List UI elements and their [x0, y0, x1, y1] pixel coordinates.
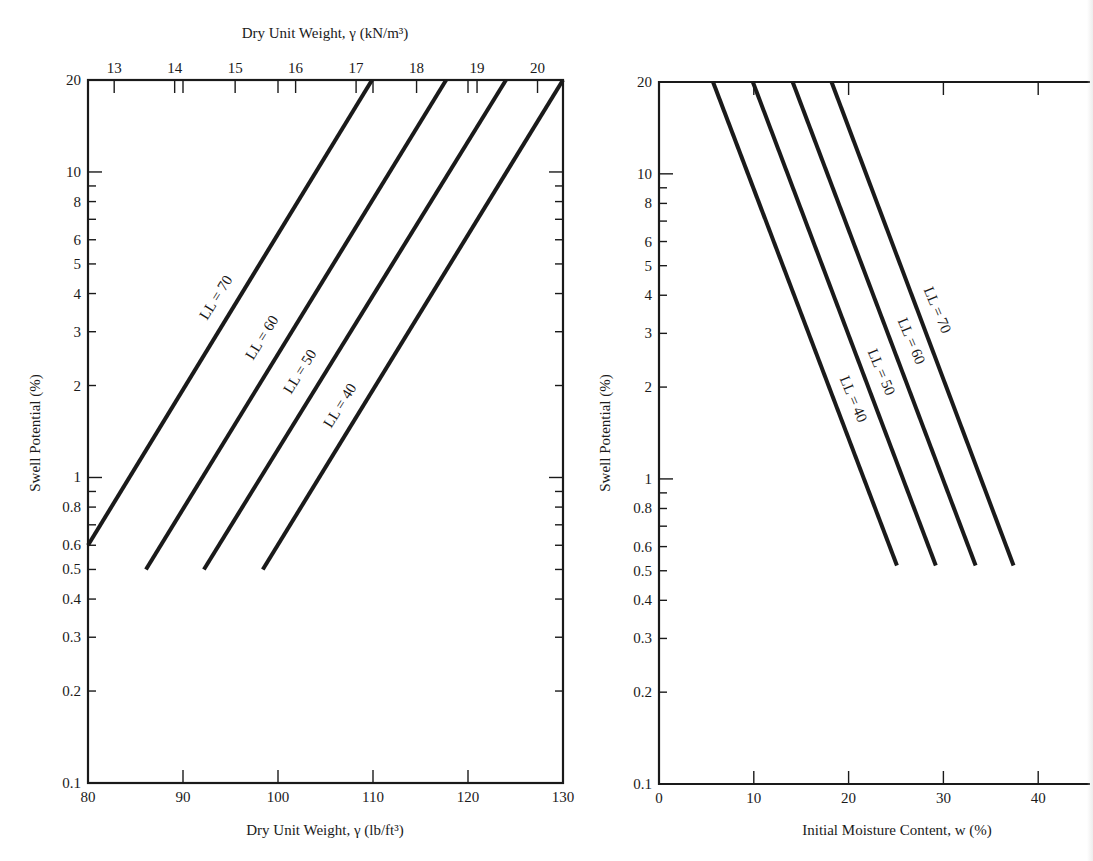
y-tick-label: 0.4 — [62, 591, 81, 607]
x-tick-label: 30 — [936, 790, 951, 806]
y-tick-label: 0.3 — [62, 629, 81, 645]
page-edge-shadow — [1087, 0, 1093, 861]
y-tick-label: 20 — [637, 74, 652, 90]
y-tick-label: 3 — [645, 325, 653, 341]
x-tick-label: 90 — [176, 789, 191, 805]
y-tick-label: 3 — [74, 324, 82, 340]
y-tick-label: 6 — [645, 234, 653, 250]
y-tick-label: 0.3 — [633, 630, 652, 646]
top-x-tick-label: 19 — [470, 60, 485, 76]
y-tick-label: 0.4 — [633, 592, 652, 608]
figure-canvas: 0.10.20.30.40.50.60.81234568102080901001… — [0, 0, 1093, 861]
y-tick-label: 2 — [645, 379, 653, 395]
y-tick-label: 10 — [66, 164, 81, 180]
right-chart: 0.10.20.30.40.50.60.81234568102001020304… — [633, 74, 1090, 806]
y-tick-label: 1 — [74, 469, 82, 485]
series-line-ll60 — [146, 80, 446, 569]
left-top-axis-title: Dry Unit Weight, γ (kN/m³) — [242, 25, 409, 42]
right-y-axis-title: Swell Potential (%) — [597, 374, 614, 491]
y-tick-label: 4 — [74, 286, 82, 302]
top-x-tick-label: 16 — [288, 60, 304, 76]
left-y-axis-title: Swell Potential (%) — [27, 374, 44, 491]
x-tick-label: 100 — [267, 789, 290, 805]
top-x-tick-label: 15 — [228, 60, 243, 76]
plot-frame — [659, 82, 1090, 784]
top-x-tick-label: 18 — [409, 60, 424, 76]
y-tick-label: 0.1 — [62, 775, 81, 791]
y-tick-label: 0.6 — [633, 539, 652, 555]
x-tick-label: 0 — [655, 790, 663, 806]
x-tick-label: 40 — [1031, 790, 1046, 806]
y-tick-label: 8 — [645, 195, 653, 211]
x-tick-label: 80 — [81, 789, 96, 805]
y-tick-label: 0.2 — [62, 683, 81, 699]
y-tick-label: 2 — [74, 378, 82, 394]
series-line-ll70 — [832, 82, 1014, 566]
x-tick-label: 120 — [457, 789, 480, 805]
y-tick-label: 0.8 — [62, 499, 81, 515]
top-x-tick-label: 20 — [530, 60, 545, 76]
y-tick-label: 1 — [645, 471, 653, 487]
y-tick-label: 0.6 — [62, 537, 81, 553]
top-axis-title-text: Dry Unit Weight, γ (kN/m³) — [242, 25, 409, 42]
y-tick-label: 0.5 — [62, 561, 81, 577]
x-tick-label: 110 — [362, 789, 384, 805]
series-line-ll40 — [713, 82, 897, 566]
y-tick-label: 6 — [74, 232, 82, 248]
y-tick-label: 10 — [637, 166, 652, 182]
y-tick-label: 20 — [66, 72, 81, 88]
y-tick-label: 0.1 — [633, 776, 652, 792]
y-tick-label: 5 — [645, 258, 653, 274]
y-tick-label: 8 — [74, 194, 82, 210]
top-x-tick-label: 17 — [349, 60, 365, 76]
y-tick-label: 0.5 — [633, 563, 652, 579]
x-tick-label: 130 — [552, 789, 575, 805]
right-bottom-axis-title: Initial Moisture Content, w (%) — [802, 822, 992, 839]
y-tick-label: 0.8 — [633, 500, 652, 516]
y-tick-label: 5 — [74, 256, 82, 272]
x-tick-label: 10 — [746, 790, 761, 806]
series-line-ll40 — [263, 80, 563, 569]
series-line-ll70 — [88, 80, 372, 545]
top-x-tick-label: 14 — [167, 60, 183, 76]
left-bottom-axis-title: Dry Unit Weight, γ (lb/ft³) — [246, 822, 404, 839]
top-x-tick-label: 13 — [107, 60, 122, 76]
y-tick-label: 0.2 — [633, 684, 652, 700]
x-tick-label: 20 — [841, 790, 856, 806]
series-line-ll50 — [204, 80, 506, 569]
y-tick-label: 4 — [645, 287, 653, 303]
left-chart: 0.10.20.30.40.50.60.81234568102080901001… — [62, 60, 574, 805]
